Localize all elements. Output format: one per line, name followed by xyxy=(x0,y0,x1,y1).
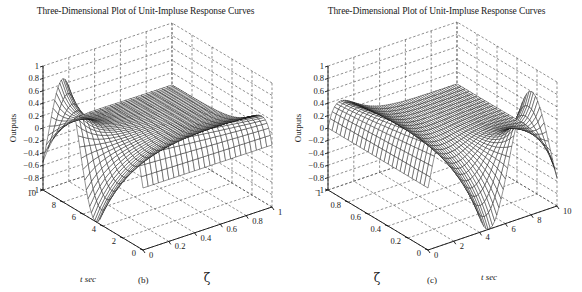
svg-text:0.4: 0.4 xyxy=(370,224,381,234)
svg-text:0.6: 0.6 xyxy=(313,86,324,96)
svg-text:4: 4 xyxy=(92,224,97,234)
svg-text:1: 1 xyxy=(35,61,39,71)
plot-panel-c: Three-Dimensional Plot of Unit-Impluse R… xyxy=(291,0,582,292)
svg-text:0: 0 xyxy=(320,123,324,133)
svg-text:−0.6: −0.6 xyxy=(309,160,324,170)
svg-text:0.8: 0.8 xyxy=(313,73,324,83)
svg-text:10: 10 xyxy=(563,206,572,216)
svg-text:0.4: 0.4 xyxy=(201,233,212,243)
t-axis-label: t sec xyxy=(481,272,497,282)
svg-text:1: 1 xyxy=(317,188,321,198)
svg-text:−0.2: −0.2 xyxy=(24,135,39,145)
surface-mesh xyxy=(43,79,272,222)
svg-text:−0.8: −0.8 xyxy=(24,173,39,183)
svg-text:0: 0 xyxy=(35,123,39,133)
svg-text:−0.2: −0.2 xyxy=(309,135,324,145)
svg-text:4: 4 xyxy=(486,232,491,242)
svg-text:0.2: 0.2 xyxy=(28,111,39,121)
surface-plot-b: 10.80.60.40.20−0.2−0.4−0.6−0.8−110864200… xyxy=(0,0,291,292)
svg-text:10: 10 xyxy=(28,188,37,198)
svg-text:0.6: 0.6 xyxy=(226,224,237,234)
svg-text:0.6: 0.6 xyxy=(350,212,361,222)
zeta-axis-label: ζ xyxy=(204,271,211,285)
surface-mesh xyxy=(328,84,557,229)
svg-text:0.4: 0.4 xyxy=(313,98,324,108)
svg-text:0.4: 0.4 xyxy=(28,98,39,108)
z-axis-label: Outputs xyxy=(293,113,303,142)
panel-caption: (b) xyxy=(138,275,149,285)
z-axis-label: Outputs xyxy=(8,113,18,142)
svg-text:2: 2 xyxy=(460,241,464,251)
panel-caption: (c) xyxy=(427,275,437,285)
zeta-axis-label: ζ xyxy=(374,271,381,285)
svg-text:−0.8: −0.8 xyxy=(309,173,324,183)
svg-text:−0.6: −0.6 xyxy=(24,160,39,170)
svg-text:0: 0 xyxy=(149,250,153,260)
svg-text:2: 2 xyxy=(112,236,116,246)
svg-text:0: 0 xyxy=(434,250,438,260)
svg-text:1: 1 xyxy=(278,207,282,217)
svg-text:0.2: 0.2 xyxy=(313,111,324,121)
surface-plot-c: 10.80.60.40.20−0.2−0.4−0.6−0.8−102468101… xyxy=(291,0,582,292)
svg-text:0.8: 0.8 xyxy=(330,200,341,210)
svg-text:6: 6 xyxy=(511,224,515,234)
svg-text:−0.4: −0.4 xyxy=(24,148,40,158)
svg-text:0.2: 0.2 xyxy=(390,236,401,246)
t-axis-label: t sec xyxy=(80,274,96,284)
svg-text:−0.4: −0.4 xyxy=(309,148,325,158)
svg-text:0: 0 xyxy=(132,248,136,258)
plot-panel-b: Three-Dimensional Plot of Unit-Impluse R… xyxy=(0,0,291,292)
svg-text:0: 0 xyxy=(417,248,421,258)
svg-text:8: 8 xyxy=(52,200,56,210)
svg-text:0.2: 0.2 xyxy=(175,241,186,251)
svg-text:1: 1 xyxy=(320,61,324,71)
svg-text:0.6: 0.6 xyxy=(28,86,39,96)
svg-text:6: 6 xyxy=(72,212,76,222)
svg-text:0.8: 0.8 xyxy=(28,73,39,83)
svg-text:0.8: 0.8 xyxy=(252,216,263,226)
svg-text:8: 8 xyxy=(537,215,541,225)
